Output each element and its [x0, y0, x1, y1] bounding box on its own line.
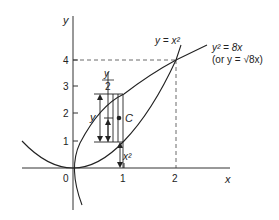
- strip-height-label: y: [89, 111, 97, 123]
- half-height-numerator: y: [103, 68, 110, 79]
- root-curve-label-line1: y² = 8x: [211, 42, 243, 53]
- area-between-curves-diagram: y x 0 1 2 1 2 3 4 y = x² y² = 8x (or y =…: [0, 0, 279, 220]
- centroid-label: C: [125, 112, 133, 124]
- x-squared-label: x²: [122, 151, 132, 162]
- parabola-curve: [22, 45, 181, 168]
- x-tick-2: 2: [172, 173, 178, 184]
- parabola-label: y = x²: [154, 35, 180, 46]
- y-tick-4: 4: [63, 55, 69, 66]
- y-tick-1: 1: [63, 136, 69, 147]
- x-tick-1: 1: [120, 173, 126, 184]
- x-axis-label: x: [224, 173, 231, 185]
- y-axis-label: y: [62, 14, 70, 26]
- root-curve-label-line2: (or y = √8x): [212, 54, 263, 65]
- root-curve: [74, 45, 207, 205]
- origin-label: 0: [63, 173, 69, 184]
- centroid-dot: [117, 116, 122, 121]
- y-tick-2: 2: [63, 108, 69, 119]
- y-tick-3: 3: [63, 81, 69, 92]
- half-height-denominator: 2: [105, 81, 111, 92]
- dimension-arrows: [100, 97, 120, 165]
